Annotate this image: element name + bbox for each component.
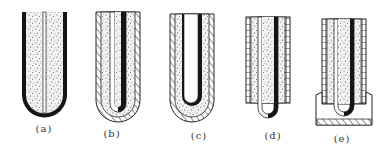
panel-d-sheath [246,17,290,118]
panel-c-sheath [170,14,214,122]
panel-label-b: (b) [103,128,120,139]
panel-label-d: (d) [264,130,281,141]
panel-a-sheath [22,12,67,118]
panel-e-sheath [316,19,372,125]
panel-b-sheath [96,12,140,122]
panel-label-c: (c) [191,130,207,141]
panel-label-e: (e) [334,133,351,144]
panel-label-a: (a) [36,123,53,134]
